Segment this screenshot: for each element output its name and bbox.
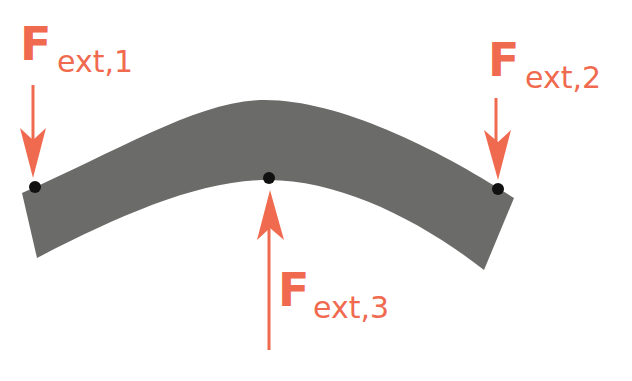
svg-text:F: F [20, 17, 51, 71]
force-label-3: F ext,3 [278, 263, 389, 325]
svg-text:F: F [488, 33, 519, 87]
svg-text:F: F [278, 263, 309, 317]
application-point-3 [263, 172, 275, 184]
svg-text:ext,3: ext,3 [313, 290, 389, 325]
force-label-1: F ext,1 [20, 17, 133, 79]
force-arrow-1 [20, 85, 46, 178]
force-arrow-2 [484, 98, 511, 180]
beam-diagram: F ext,1 F ext,2 F ext,3 [0, 0, 632, 381]
application-point-1 [29, 181, 41, 193]
svg-text:ext,2: ext,2 [525, 60, 601, 95]
svg-text:ext,1: ext,1 [57, 44, 133, 79]
application-point-2 [492, 183, 504, 195]
force-label-2: F ext,2 [488, 33, 601, 95]
